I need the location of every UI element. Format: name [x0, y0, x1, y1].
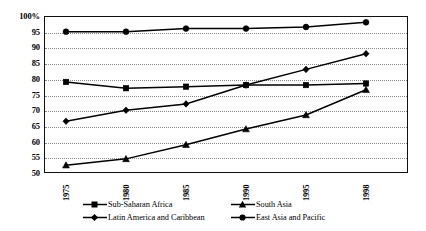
line-chart-figure: 100%95908580757065605550 197519801985199…	[0, 0, 426, 231]
y-axis-tick-label: 100%	[0, 12, 40, 21]
legend-item-south-asia: South Asia	[231, 200, 292, 209]
legend-item-east-asia-and-pacific: East Asia and Pacific	[231, 213, 325, 222]
y-axis-tick-label: 80	[0, 75, 40, 84]
legend-label: East Asia and Pacific	[256, 213, 325, 222]
chart-legend: Sub-Saharan Africa South Asia Latin Amer…	[0, 198, 426, 231]
legend-label: South Asia	[256, 200, 292, 209]
y-axis-tick-label: 75	[0, 91, 40, 100]
gridline	[45, 33, 407, 34]
gridline	[45, 80, 407, 81]
gridline	[45, 158, 407, 159]
plot-area	[44, 16, 408, 173]
y-axis-tick-label: 90	[0, 43, 40, 52]
legend-item-sub-saharan-africa: Sub-Saharan Africa	[83, 200, 172, 209]
y-axis-tick-label: 50	[0, 169, 40, 178]
circle-marker-icon	[231, 213, 255, 222]
gridline	[45, 143, 407, 144]
y-axis-tick-label: 60	[0, 138, 40, 147]
y-axis-tick-label: 85	[0, 59, 40, 68]
y-axis-tick-label: 65	[0, 122, 40, 131]
triangle-marker-icon	[231, 200, 255, 209]
square-marker-icon	[83, 200, 107, 209]
legend-item-latin-america-and-caribbean: Latin America and Caribbean	[83, 213, 205, 222]
gridline	[45, 48, 407, 49]
gridline	[45, 96, 407, 97]
legend-label: Sub-Saharan Africa	[108, 200, 172, 209]
y-axis-tick-label: 55	[0, 153, 40, 162]
y-axis-tick-label: 70	[0, 106, 40, 115]
gridline	[45, 64, 407, 65]
diamond-marker-icon	[83, 213, 107, 222]
legend-label: Latin America and Caribbean	[108, 213, 205, 222]
y-axis-tick-label: 95	[0, 28, 40, 37]
gridline	[45, 127, 407, 128]
gridline	[45, 111, 407, 112]
